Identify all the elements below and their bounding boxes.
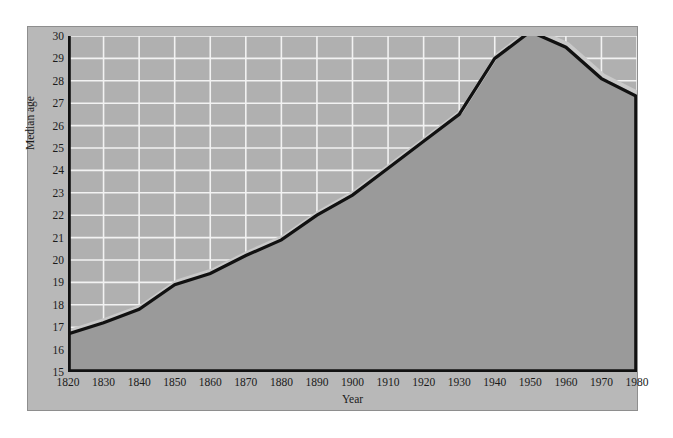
y-tick-label: 23 xyxy=(30,188,64,198)
y-tick-label: 21 xyxy=(30,233,64,243)
x-axis-title: Year xyxy=(68,393,637,405)
chart-svg xyxy=(68,36,637,372)
y-tick-label: 20 xyxy=(30,255,64,265)
y-tick-label: 19 xyxy=(30,277,64,287)
y-tick-label: 18 xyxy=(30,300,64,310)
y-tick-label: 24 xyxy=(30,165,64,175)
x-tick-label: 1980 xyxy=(614,376,660,388)
y-tick-label: 17 xyxy=(30,322,64,332)
y-tick-label: 26 xyxy=(30,121,64,131)
x-axis-tick-labels: 1820183018401850186018701880189019001910… xyxy=(68,376,643,392)
y-tick-label: 28 xyxy=(30,76,64,86)
y-tick-label: 27 xyxy=(30,98,64,108)
y-tick-label: 16 xyxy=(30,345,64,355)
chart-figure: Median age 15161718192021222324252627282… xyxy=(0,0,673,438)
y-tick-label: 30 xyxy=(30,31,64,41)
y-tick-label: 29 xyxy=(30,53,64,63)
plot-area xyxy=(68,36,637,372)
y-tick-label: 25 xyxy=(30,143,64,153)
y-axis-tick-labels: 15161718192021222324252627282930 xyxy=(28,36,64,372)
y-tick-label: 22 xyxy=(30,210,64,220)
